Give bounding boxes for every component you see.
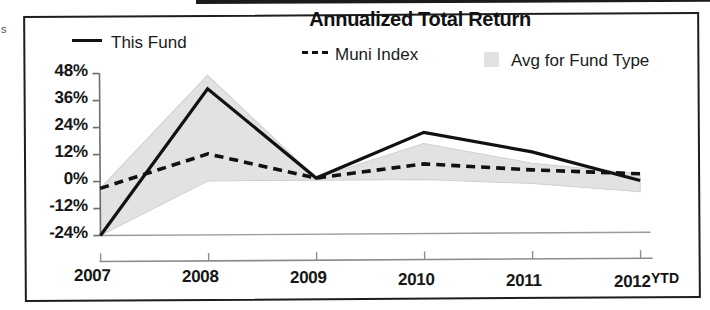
y-axis-tick-label: -12% (32, 196, 88, 216)
x-axis-tick-label: 2011 (506, 271, 542, 291)
x-axis-tick-label: 2009 (290, 268, 327, 288)
x-axis-tick-label: 2007 (74, 266, 111, 286)
y-axis-tick-label: 0% (32, 169, 88, 189)
chart-plot-area (0, 0, 710, 310)
ytd-label: YTD (651, 270, 679, 286)
y-axis-tick-label: 24% (32, 115, 88, 135)
x-axis-tick-label: 2012 (614, 272, 651, 292)
x-axis-tick-label: 2008 (182, 267, 219, 287)
y-axis-tick-label: -24% (32, 223, 88, 243)
x-axis-tick-label: 2010 (398, 269, 435, 289)
y-axis-tick-label: 36% (32, 88, 88, 108)
y-axis-tick-label: 12% (32, 142, 88, 162)
y-axis-tick-label: 48% (32, 61, 88, 81)
